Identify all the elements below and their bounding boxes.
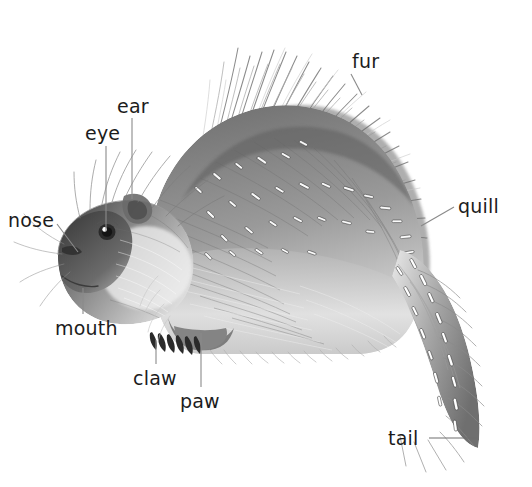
- label-mouth: mouth: [55, 319, 118, 338]
- porcupine-anatomy-diagram: fur ear eye nose quill mouth claw paw ta…: [0, 0, 532, 487]
- label-claw: claw: [133, 369, 177, 388]
- label-nose: nose: [8, 211, 54, 230]
- label-fur: fur: [352, 52, 379, 71]
- label-ear: ear: [117, 97, 149, 116]
- porcupine-illustration: [0, 0, 532, 487]
- label-tail: tail: [388, 429, 418, 448]
- label-eye: eye: [85, 124, 120, 143]
- label-paw: paw: [180, 392, 220, 411]
- label-quill: quill: [458, 197, 499, 216]
